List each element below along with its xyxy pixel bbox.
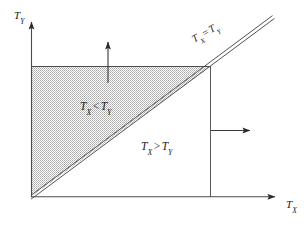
y-axis-label: TY — [14, 10, 24, 21]
x-axis-label-subscript: X — [292, 206, 297, 215]
region-label-tx-less-ty: TX<TY — [80, 101, 111, 113]
upper-label-operator: < — [91, 100, 101, 112]
lower-label-term2-subscript: Y — [168, 148, 172, 157]
x-axis-label: TX — [286, 199, 297, 210]
lower-label-operator: > — [152, 140, 162, 152]
diagram-vector-graphics — [0, 0, 308, 231]
upper-label-term1-subscript: X — [86, 108, 91, 117]
region-label-tx-greater-ty: TX>TY — [141, 141, 172, 153]
diagram-canvas: TY TX TX<TY TX>TY TX=TY — [0, 0, 308, 231]
lower-label-term1-subscript: X — [147, 148, 152, 157]
upper-label-term2-subscript: Y — [107, 108, 111, 117]
y-axis-label-subscript: Y — [20, 17, 24, 26]
